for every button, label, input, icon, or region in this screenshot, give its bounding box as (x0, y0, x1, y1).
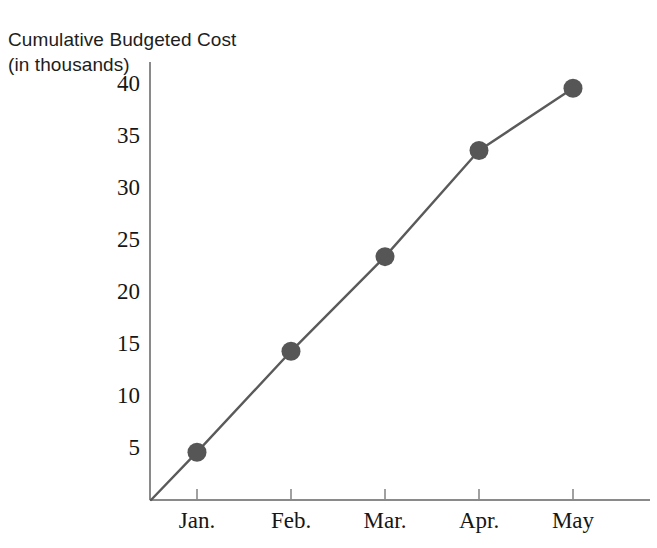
y-tick-label: 35 (96, 124, 140, 147)
data-point-marker (188, 443, 207, 462)
data-point-marker (282, 342, 301, 361)
x-axis-ticks (197, 489, 573, 500)
data-point-marker (564, 79, 583, 98)
data-markers (188, 79, 583, 462)
y-tick-label: 15 (96, 332, 140, 355)
x-tick-label: Feb. (241, 509, 341, 532)
y-tick-label: 10 (96, 384, 140, 407)
x-tick-label: May (523, 509, 623, 532)
y-tick-label: 25 (96, 228, 140, 251)
data-point-marker (470, 141, 489, 160)
data-point-marker (376, 247, 395, 266)
x-tick-label: Apr. (429, 509, 529, 532)
x-tick-label: Mar. (335, 509, 435, 532)
y-tick-label: 5 (96, 436, 140, 459)
line-chart: Cumulative Budgeted Cost (in thousands) … (0, 0, 657, 548)
y-tick-label: 20 (96, 280, 140, 303)
x-tick-label: Jan. (147, 509, 247, 532)
data-line (151, 88, 573, 500)
y-tick-label: 30 (96, 176, 140, 199)
y-tick-label: 40 (96, 72, 140, 95)
